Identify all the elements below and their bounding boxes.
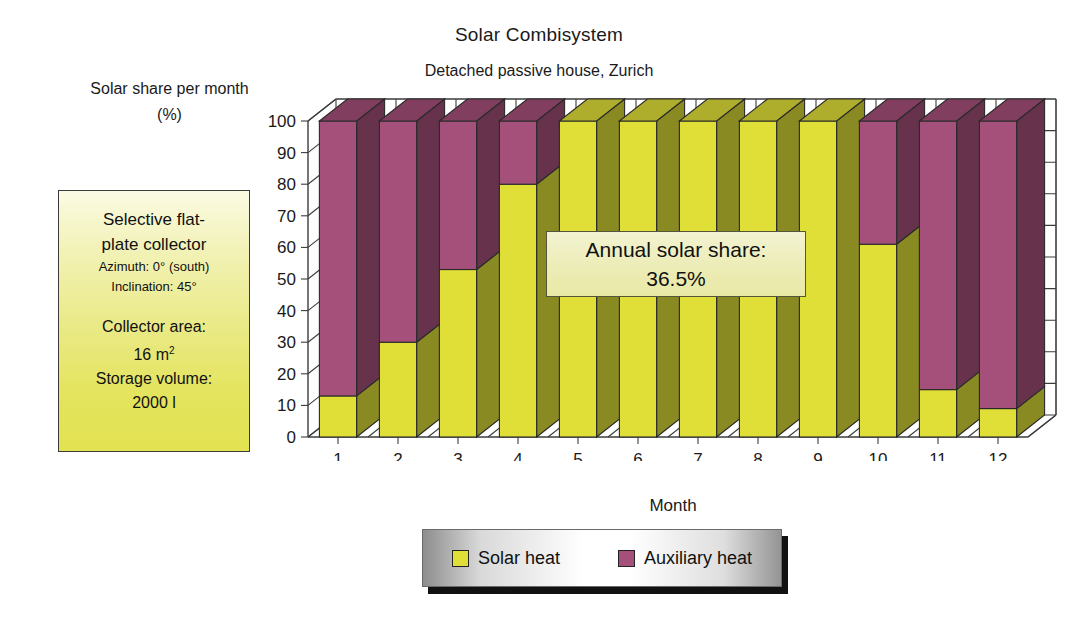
callout-line1: Annual solar share: — [586, 235, 767, 264]
svg-text:4: 4 — [513, 450, 522, 461]
svg-text:0: 0 — [287, 428, 296, 447]
svg-text:30: 30 — [277, 333, 296, 352]
legend-label-auxiliary-heat: Auxiliary heat — [644, 548, 752, 569]
svg-text:3: 3 — [453, 450, 462, 461]
info-storage-label: Storage volume: — [96, 367, 213, 391]
svg-text:12: 12 — [989, 450, 1008, 461]
info-collector-area-label: Collector area: — [102, 315, 206, 339]
svg-text:40: 40 — [277, 302, 296, 321]
svg-text:70: 70 — [277, 207, 296, 226]
annual-solar-share-callout: Annual solar share: 36.5% — [546, 231, 806, 297]
chart-title: Solar Combisystem — [0, 24, 1078, 46]
y-axis-caption: Solar share per month (%) — [62, 76, 277, 128]
svg-text:2: 2 — [393, 450, 402, 461]
svg-text:60: 60 — [277, 238, 296, 257]
svg-text:5: 5 — [573, 450, 582, 461]
collector-info-box: Selective flat- plate collector Azimuth:… — [58, 190, 250, 452]
info-heading-line1: Selective flat- — [69, 207, 239, 232]
svg-text:50: 50 — [277, 270, 296, 289]
callout-line2: 36.5% — [646, 264, 706, 293]
legend-swatch-auxiliary-heat — [618, 550, 635, 567]
legend-swatch-solar-heat — [452, 550, 469, 567]
svg-text:8: 8 — [753, 450, 762, 461]
y-axis-caption-line2: (%) — [62, 102, 277, 128]
x-axis-title: Month — [268, 496, 1078, 516]
svg-text:1: 1 — [333, 450, 342, 461]
info-inclination: Inclination: 45° — [111, 277, 196, 297]
svg-text:11: 11 — [929, 450, 947, 461]
svg-text:10: 10 — [869, 450, 888, 461]
svg-text:80: 80 — [277, 175, 296, 194]
legend-item-solar-heat: Solar heat — [452, 548, 560, 569]
svg-text:6: 6 — [633, 450, 642, 461]
svg-text:20: 20 — [277, 365, 296, 384]
legend-label-solar-heat: Solar heat — [478, 548, 560, 569]
legend-item-auxiliary-heat: Auxiliary heat — [618, 548, 752, 569]
svg-text:10: 10 — [277, 396, 296, 415]
info-azimuth: Azimuth: 0° (south) — [99, 257, 210, 277]
chart-legend: Solar heat Auxiliary heat — [422, 529, 782, 587]
collector-area-number: 16 m — [133, 346, 169, 363]
info-collector-area-value: 16 m2 — [133, 339, 174, 367]
collector-area-exponent: 2 — [169, 345, 175, 356]
svg-text:9: 9 — [813, 450, 822, 461]
info-heading: Selective flat- plate collector — [69, 207, 239, 257]
svg-text:90: 90 — [277, 144, 296, 163]
chart-page: Solar Combisystem Detached passive house… — [0, 0, 1078, 636]
svg-text:100: 100 — [268, 112, 296, 131]
info-heading-line2: plate collector — [69, 232, 239, 257]
info-storage-value: 2000 l — [132, 391, 176, 415]
svg-text:7: 7 — [693, 450, 702, 461]
y-axis-caption-line1: Solar share per month — [62, 76, 277, 102]
